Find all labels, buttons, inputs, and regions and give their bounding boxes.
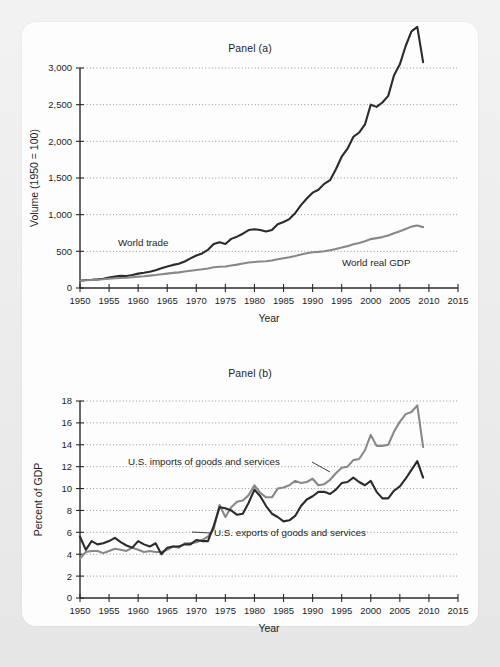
x-tick-label: 2015 (447, 295, 468, 306)
y-tick-label: 16 (61, 417, 72, 428)
panel-b-plot: 0246810121416181950195519601965197019751… (22, 322, 478, 626)
figure-page: Panel (a) 05001,0001,5002,0002,5003,0001… (0, 0, 500, 667)
panel-a: Panel (a) 05001,0001,5002,0002,5003,0001… (22, 22, 478, 342)
x-tick-label: 1950 (69, 605, 90, 616)
y-tick-label: 8 (67, 505, 72, 516)
series-annotation-0: U.S. imports of goods and services (128, 456, 280, 467)
x-tick-label: 2000 (360, 605, 381, 616)
x-tick-label: 1980 (244, 605, 265, 616)
y-tick-label: 0 (67, 592, 72, 603)
y-tick-label: 12 (61, 461, 72, 472)
series-line-1 (80, 461, 423, 554)
x-tick-label: 1975 (215, 605, 236, 616)
y-tick-label: 500 (56, 246, 72, 257)
x-tick-label: 1975 (215, 295, 236, 306)
y-tick-label: 3,000 (48, 62, 72, 73)
x-tick-label: 1950 (69, 295, 90, 306)
y-tick-label: 2 (67, 571, 72, 582)
y-axis-title: Percent of GDP (32, 463, 44, 537)
y-tick-label: 2,500 (48, 99, 72, 110)
x-tick-label: 1995 (331, 605, 352, 616)
x-tick-label: 2005 (389, 605, 410, 616)
x-tick-label: 2000 (360, 295, 381, 306)
x-tick-label: 1970 (186, 295, 207, 306)
x-tick-label: 2010 (418, 605, 439, 616)
y-tick-label: 6 (67, 527, 72, 538)
x-tick-label: 1960 (128, 605, 149, 616)
x-tick-label: 1970 (186, 605, 207, 616)
annotation-leader-1 (192, 532, 210, 533)
x-tick-label: 1990 (302, 605, 323, 616)
x-tick-label: 1985 (273, 605, 294, 616)
x-tick-label: 2005 (389, 295, 410, 306)
x-tick-label: 1965 (157, 605, 178, 616)
y-tick-label: 1,000 (48, 209, 72, 220)
series-annotation-0: World trade (118, 237, 169, 248)
x-tick-label: 1960 (128, 295, 149, 306)
x-tick-label: 1955 (99, 295, 120, 306)
panel-b: Panel (b) 024681012141618195019551960196… (22, 322, 478, 626)
x-tick-label: 1985 (273, 295, 294, 306)
y-tick-label: 2,000 (48, 136, 72, 147)
y-tick-label: 10 (61, 483, 72, 494)
x-tick-label: 2010 (418, 295, 439, 306)
y-tick-label: 0 (67, 282, 72, 293)
series-annotation-1: U.S. exports of goods and services (214, 527, 366, 538)
series-annotation-1: World real GDP (342, 257, 411, 268)
x-tick-label: 2015 (447, 605, 468, 616)
x-tick-label: 1990 (302, 295, 323, 306)
series-line-1 (80, 226, 423, 281)
y-tick-label: 4 (67, 549, 72, 560)
x-tick-label: 1980 (244, 295, 265, 306)
x-axis-title: Year (258, 622, 280, 634)
x-tick-label: 1965 (157, 295, 178, 306)
panel-a-plot: 05001,0001,5002,0002,5003,00019501955196… (22, 22, 478, 342)
x-tick-label: 1955 (99, 605, 120, 616)
x-tick-label: 1995 (331, 295, 352, 306)
y-tick-label: 14 (61, 439, 72, 450)
figure-card: Panel (a) 05001,0001,5002,0002,5003,0001… (22, 22, 478, 626)
y-axis-title: Volume (1950 = 100) (28, 129, 40, 227)
y-tick-label: 1,500 (48, 172, 72, 183)
y-tick-label: 18 (61, 395, 72, 406)
